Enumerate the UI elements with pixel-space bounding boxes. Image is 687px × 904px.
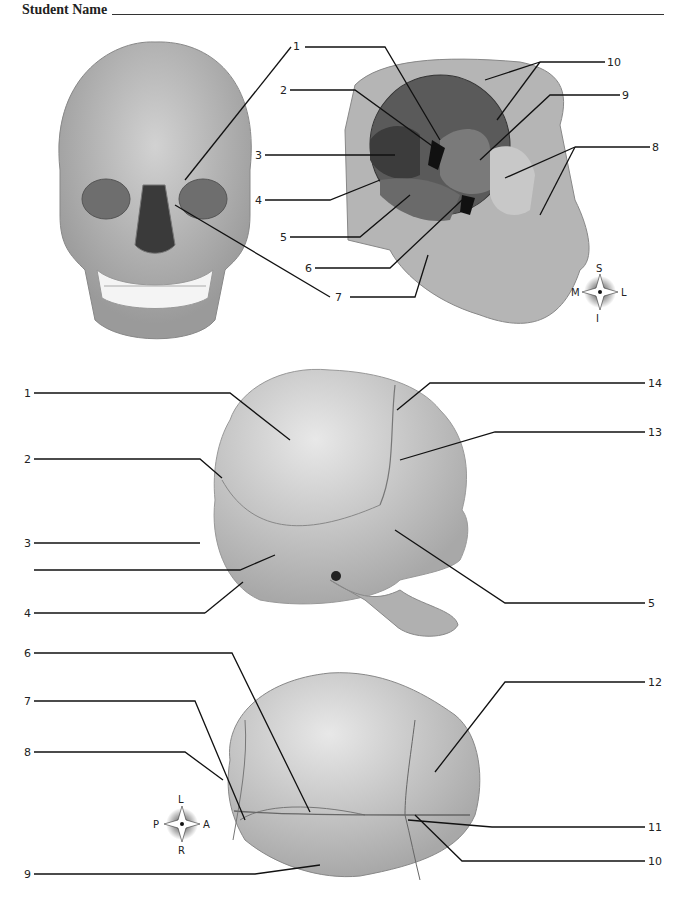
compass-label-right: R — [178, 845, 185, 856]
label-5: 5 — [280, 231, 287, 244]
compass-label-anterior: A — [203, 819, 210, 830]
label-2: 2 — [280, 84, 287, 97]
label-7: 7 — [335, 291, 342, 304]
anterior-skull-illustration — [59, 42, 251, 339]
compass-label-posterior: P — [153, 819, 159, 830]
label-6: 6 — [24, 647, 31, 660]
label-12: 12 — [648, 676, 662, 689]
label-2: 2 — [24, 453, 31, 466]
fetal-skull-superior-illustration — [228, 673, 480, 880]
label-11: 11 — [648, 821, 662, 834]
label-10: 10 — [648, 855, 662, 868]
compass-label-medial: M — [571, 287, 580, 298]
fetal-skull-lateral-illustration — [214, 369, 468, 636]
label-14: 14 — [648, 377, 662, 390]
label-13: 13 — [648, 426, 662, 439]
label-1: 1 — [24, 387, 31, 400]
compass-label-superior: S — [596, 263, 602, 274]
compass-label-left: L — [178, 794, 184, 805]
label-9: 9 — [24, 868, 31, 881]
label-1: 1 — [293, 40, 300, 53]
compass-label-lateral: L — [621, 287, 627, 298]
label-3: 3 — [255, 149, 262, 162]
label-7: 7 — [24, 695, 31, 708]
label-5: 5 — [648, 597, 655, 610]
label-4: 4 — [24, 607, 31, 620]
compass-rose-superior: L R P A — [153, 794, 210, 856]
anatomy-figures: S I M L 1 2 3 4 5 6 7 8 9 10 — [0, 0, 687, 904]
label-4: 4 — [255, 194, 262, 207]
label-3: 3 — [24, 537, 31, 550]
label-10: 10 — [607, 56, 621, 69]
label-9: 9 — [622, 89, 629, 102]
compass-label-inferior: I — [596, 313, 599, 324]
label-8: 8 — [652, 141, 659, 154]
label-6: 6 — [305, 262, 312, 275]
label-8: 8 — [24, 746, 31, 759]
